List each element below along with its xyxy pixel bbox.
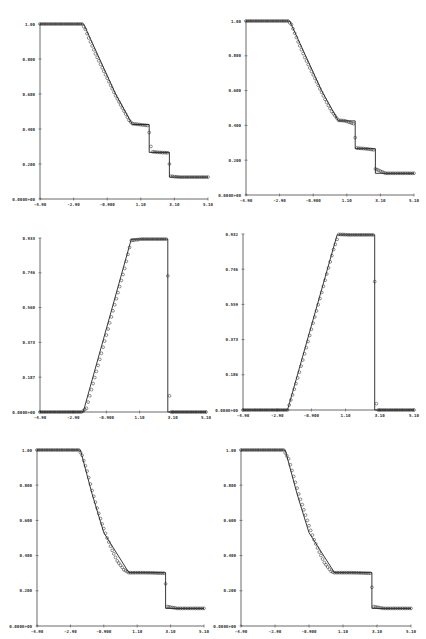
- chart-panel-top-right: 0.000E+000.2000.4000.6000.8001.00-4.90-2…: [213, 0, 426, 210]
- numerical-data-point: [93, 376, 96, 379]
- y-tick-label: 0.600: [22, 92, 35, 97]
- numerical-data-point: [97, 364, 100, 367]
- numerical-data-point: [107, 328, 110, 331]
- y-tick-label: 1.00: [226, 448, 237, 453]
- y-tick-label: 0.400: [228, 123, 241, 128]
- numerical-data-point: [108, 322, 111, 325]
- numerical-data-point: [115, 297, 118, 300]
- exact-solution-line: [37, 450, 204, 608]
- x-tick-label: 3.10: [372, 629, 383, 634]
- y-tick-label: 0.560: [22, 305, 35, 310]
- chart-panel-middle-left: 0.000E+000.1870.3730.5600.7460.933-4.90-…: [0, 210, 213, 420]
- y-tick-label: 0.000E+00: [215, 408, 238, 413]
- x-tick-label: 5.10: [203, 202, 213, 207]
- y-tick-label: 0.200: [228, 158, 241, 163]
- x-tick-label: 1.10: [342, 198, 353, 203]
- numerical-data-point: [318, 551, 321, 554]
- y-tick-label: 0.200: [223, 588, 236, 593]
- numerical-data-point: [379, 170, 382, 173]
- y-tick-label: 0.746: [22, 270, 35, 275]
- x-tick-label: -0.900: [100, 202, 116, 207]
- numerical-data-point: [105, 334, 108, 337]
- numerical-data-point: [103, 340, 106, 343]
- y-tick-label: 0.200: [19, 588, 32, 593]
- x-tick-label: -4.90: [31, 629, 44, 634]
- plot-svg: 0.000E+000.2000.4000.6000.8001.00-4.90-2…: [0, 420, 213, 639]
- y-tick-label: 0.000E+00: [12, 410, 35, 415]
- numerical-data-point: [311, 534, 314, 537]
- numerical-data-point: [111, 549, 114, 552]
- numerical-data-point: [102, 346, 105, 349]
- y-tick-label: 0.800: [19, 483, 32, 488]
- y-tick-label: 0.600: [223, 518, 236, 523]
- numerical-data-point: [92, 48, 95, 51]
- x-tick-label: 5.10: [199, 629, 210, 634]
- numerical-data-point: [90, 388, 93, 391]
- plot-svg: 0.000E+000.2000.4000.6000.8001.00-4.90-2…: [0, 0, 213, 210]
- numerical-data-point: [92, 382, 95, 385]
- chart-panel-bottom-right: 0.000E+000.2000.4000.6000.8001.00-4.90-2…: [213, 420, 426, 639]
- numerical-data-point: [303, 56, 306, 59]
- y-tick-label: 0.746: [225, 267, 238, 272]
- numerical-data-point: [114, 556, 117, 559]
- numerical-data-point: [321, 558, 324, 561]
- y-tick-label: 1.00: [25, 22, 36, 27]
- numerical-data-point: [306, 519, 309, 522]
- x-tick-label: 3.10: [375, 413, 386, 418]
- numerical-data-point: [327, 104, 330, 107]
- x-tick-label: -2.90: [273, 198, 286, 203]
- numerical-data-point: [308, 524, 311, 527]
- chart-panel-top-left: 0.000E+000.2000.4000.6000.8001.00-4.90-2…: [0, 0, 213, 210]
- numerical-data-point: [330, 570, 333, 573]
- y-tick-label: 0.800: [228, 53, 241, 58]
- x-tick-label: 3.10: [166, 629, 177, 634]
- numerical-data-point: [88, 394, 91, 397]
- numerical-data-point: [294, 481, 297, 484]
- numerical-data-point: [98, 358, 101, 361]
- exact-solution-line: [40, 239, 206, 412]
- x-tick-label: 5.10: [409, 198, 420, 203]
- y-tick-label: 0.400: [223, 553, 236, 558]
- x-tick-label: -4.90: [235, 629, 248, 634]
- numerical-data-point: [302, 52, 305, 55]
- numerical-data-point: [100, 352, 103, 355]
- numerical-data-point: [296, 487, 299, 490]
- x-tick-label: -0.900: [306, 198, 322, 203]
- numerical-data-point: [123, 267, 126, 270]
- numerical-data-point: [113, 303, 116, 306]
- numerical-data-point: [309, 529, 312, 532]
- numerical-data-point: [381, 170, 384, 173]
- numerical-data-point: [120, 279, 123, 282]
- y-tick-label: 0.932: [225, 232, 238, 237]
- x-tick-label: -4.90: [237, 413, 250, 418]
- numerical-data-point: [97, 59, 100, 62]
- numerical-data-point: [122, 273, 125, 276]
- exact-solution-line: [246, 21, 414, 173]
- y-tick-label: 0.800: [223, 483, 236, 488]
- numerical-data-point: [110, 316, 113, 319]
- numerical-data-point: [375, 402, 378, 405]
- numerical-data-point: [352, 122, 355, 125]
- x-tick-label: -4.90: [240, 198, 253, 203]
- x-tick-label: 1.10: [136, 202, 147, 207]
- y-tick-label: 0.373: [225, 337, 238, 342]
- x-tick-label: -4.90: [34, 202, 47, 207]
- y-tick-label: 0.600: [228, 88, 241, 93]
- numerical-data-point: [99, 63, 102, 66]
- plot-svg: 0.000E+000.1870.3730.5600.7460.933-4.90-…: [0, 210, 213, 420]
- plot-svg: 0.000E+000.2000.4000.6000.8001.00-4.90-2…: [213, 420, 426, 639]
- numerical-data-point: [118, 285, 121, 288]
- numerical-data-point: [303, 508, 306, 511]
- chart-panel-middle-right: 0.000E+000.1860.3730.5590.7460.932-4.90-…: [213, 210, 426, 420]
- numerical-data-point: [320, 554, 323, 557]
- y-tick-label: 0.559: [225, 302, 238, 307]
- exact-solution-line: [40, 24, 208, 177]
- x-tick-label: -2.90: [64, 629, 77, 634]
- x-tick-label: 1.10: [338, 629, 349, 634]
- y-tick-label: 0.373: [22, 340, 35, 345]
- numerical-data-point: [299, 498, 302, 501]
- x-tick-label: 3.10: [169, 202, 180, 207]
- numerical-data-point: [117, 291, 120, 294]
- x-tick-label: 1.10: [341, 413, 352, 418]
- chart-panel-bottom-left: 0.000E+000.2000.4000.6000.8001.00-4.90-2…: [0, 420, 213, 639]
